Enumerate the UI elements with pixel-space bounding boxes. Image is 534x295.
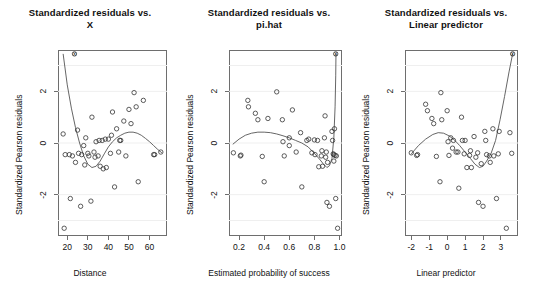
y-tick-mark (401, 194, 405, 195)
x-tick-mark (264, 236, 265, 240)
x-tick-mark (128, 236, 129, 240)
extreme-residual-x-marker: x (511, 50, 515, 57)
data-point (90, 115, 94, 119)
data-point (469, 165, 473, 169)
y-tick-label: -2 (37, 186, 49, 204)
x-tick-mark (289, 236, 290, 240)
data-point (450, 146, 454, 150)
x-tick-mark (447, 236, 448, 240)
data-point (116, 150, 120, 154)
data-point (459, 115, 463, 119)
data-point (62, 226, 66, 230)
data-point (330, 138, 334, 142)
x-tick-label: 1.0 (325, 242, 353, 252)
data-point (476, 200, 480, 204)
y-tick-mark (225, 194, 229, 195)
data-point (266, 116, 270, 120)
data-point (122, 119, 126, 123)
data-point (108, 151, 112, 155)
x-tick-label: 60 (136, 242, 164, 252)
data-point (508, 130, 512, 134)
x-tick-mark (87, 236, 88, 240)
x-tick-mark (108, 236, 109, 240)
data-point (472, 134, 476, 138)
data-point (322, 136, 326, 140)
y-tick-label: 0 (208, 134, 220, 152)
data-point (246, 105, 250, 109)
x-tick-mark (339, 236, 340, 240)
x-tick-label: 0.4 (250, 242, 278, 252)
data-point (484, 138, 488, 142)
data-point (109, 133, 113, 137)
data-point (488, 160, 492, 164)
data-point (438, 180, 442, 184)
data-point (491, 127, 495, 131)
data-point (129, 121, 133, 125)
panel-2-x-axis-label: Estimated probability of success (180, 268, 358, 278)
x-tick-mark (411, 236, 412, 240)
data-point (253, 111, 257, 115)
data-point (504, 226, 508, 230)
data-point (494, 196, 498, 200)
data-point (484, 152, 488, 156)
x-tick-mark (483, 236, 484, 240)
y-tick-mark (401, 91, 405, 92)
data-point (468, 149, 472, 153)
data-point (474, 155, 478, 159)
y-tick-mark (54, 143, 58, 144)
data-point (73, 160, 77, 164)
data-point (334, 196, 338, 200)
panel-3-y-axis-label: Standardized Pearson residuals (361, 95, 371, 216)
data-point (425, 109, 429, 113)
x-tick-mark (314, 236, 315, 240)
x-tick-mark (465, 236, 466, 240)
data-point (68, 196, 72, 200)
data-point (275, 90, 279, 94)
data-point (510, 151, 514, 155)
x-tick-mark (149, 236, 150, 240)
residual-plot-figure: Standardized residuals vs. X x Standardi… (0, 0, 534, 295)
data-point (231, 151, 235, 155)
panel-standardized-residuals-vs-pihat: Standardized residuals vs. pi.hat x Stan… (180, 0, 358, 295)
x-tick-label: 3 (487, 242, 515, 252)
x-tick-label: 0.2 (225, 242, 253, 252)
data-point (134, 105, 138, 109)
data-point (86, 151, 90, 155)
data-point (89, 199, 93, 203)
y-tick-label: 0 (384, 134, 396, 152)
data-point (287, 143, 291, 147)
y-tick-mark (401, 143, 405, 144)
data-point (465, 165, 469, 169)
x-tick-mark (67, 236, 68, 240)
data-point (83, 163, 87, 167)
data-point (84, 136, 88, 140)
x-tick-label: 0.6 (275, 242, 303, 252)
data-point (246, 98, 250, 102)
data-point (61, 132, 65, 136)
data-point (496, 152, 500, 156)
data-point (447, 153, 451, 157)
y-tick-mark (225, 91, 229, 92)
y-tick-mark (54, 91, 58, 92)
data-point (280, 118, 284, 122)
data-point (332, 159, 336, 163)
data-point (127, 107, 131, 111)
data-point (432, 121, 436, 125)
data-point (112, 185, 116, 189)
x-tick-mark (429, 236, 430, 240)
x-tick-mark (500, 236, 501, 240)
data-point (256, 118, 260, 122)
data-point (423, 102, 427, 106)
data-point (323, 155, 327, 159)
y-tick-label: 2 (37, 82, 49, 100)
data-point (114, 127, 118, 131)
x-tick-label: 0.8 (300, 242, 328, 252)
y-tick-label: -2 (208, 186, 220, 204)
data-point (124, 154, 128, 158)
data-point (260, 154, 264, 158)
data-point (335, 226, 339, 230)
data-point (479, 161, 483, 165)
data-point (327, 204, 331, 208)
data-point (457, 186, 461, 190)
data-point (463, 138, 467, 142)
